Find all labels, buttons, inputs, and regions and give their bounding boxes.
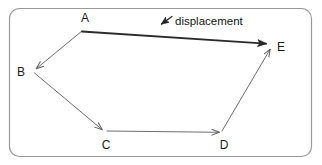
vertex-label-c: C <box>102 138 111 152</box>
diagram-frame <box>10 9 312 157</box>
vertex-label-a: A <box>81 11 89 25</box>
vertex-label-d: D <box>220 138 229 152</box>
displacement-label: displacement <box>175 15 244 27</box>
vertex-label-b: B <box>17 65 25 79</box>
diagram-canvas: A B C D E displacement <box>0 0 322 165</box>
vertex-label-e: E <box>277 40 285 54</box>
displacement-path-diagram: A B C D E displacement <box>0 0 322 165</box>
